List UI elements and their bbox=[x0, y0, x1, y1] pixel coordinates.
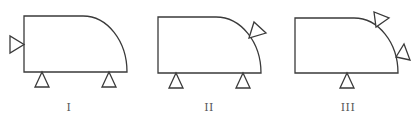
figure-3-body bbox=[295, 18, 398, 73]
figure-2 bbox=[158, 17, 266, 88]
figure-1-bottom-support-right-icon bbox=[102, 72, 116, 87]
figure-3-arc-support-lower-icon bbox=[396, 44, 410, 60]
figure-1 bbox=[10, 16, 127, 87]
figure-1-body bbox=[24, 16, 127, 72]
figure-1-label: I bbox=[49, 101, 89, 114]
figure-2-bottom-support-left-icon bbox=[169, 73, 183, 88]
figure-3-bottom-support-icon bbox=[340, 73, 354, 88]
figure-3-label: III bbox=[328, 101, 368, 114]
figure-2-bottom-support-right-icon bbox=[236, 73, 250, 88]
figure-1-left-support-icon bbox=[10, 36, 24, 53]
figure-3 bbox=[295, 12, 410, 88]
figure-1-bottom-support-left-icon bbox=[35, 72, 49, 87]
figure-3-arc-support-upper-icon bbox=[374, 12, 389, 27]
figure-2-body bbox=[158, 17, 261, 73]
figure-2-label: II bbox=[189, 101, 229, 114]
figure-2-arc-support-icon bbox=[249, 22, 266, 38]
